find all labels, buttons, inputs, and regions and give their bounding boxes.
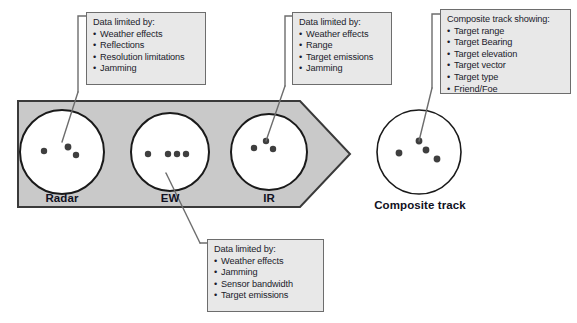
radar-callout-item: Jamming [93,63,199,75]
ir-callout-list: Weather effects Range Target emissions J… [299,29,385,75]
ew-callout-item: Target emissions [214,290,317,302]
ir-callout-item: Weather effects [299,29,385,41]
ir-callout-box: Data limited by: Weather effects Range T… [292,12,392,85]
composite-callout-item: Target Bearing [447,37,564,49]
radar-callout-leader [78,16,86,92]
composite-callout-item: Target range [447,26,564,38]
radar-callout-title: Data limited by: [93,17,199,29]
ir-dot [251,145,257,151]
ew-callout-list: Weather effects Jamming Sensor bandwidth… [214,256,317,302]
radar-callout-item: Resolution limitations [93,52,199,64]
ir-callout-item: Range [299,40,385,52]
radar-callout-list: Weather effects Reflections Resolution l… [93,29,199,75]
composite-callout-title: Composite track showing: [447,14,564,26]
composite-dot [434,156,441,163]
radar-callout-item: Reflections [93,40,199,52]
composite-callout-leader [432,14,440,88]
composite-callout-item: Target elevation [447,49,564,61]
sensor-fusion-diagram: Radar EW IR Composite track Data limited… [0,0,577,323]
radar-dot [73,152,79,158]
composite-dot [396,150,403,157]
ew-callout-item: Weather effects [214,256,317,268]
composite-callout-box: Composite track showing: Target range Ta… [440,9,571,94]
ew-callout-item: Jamming [214,267,317,279]
composite-callout-list: Target range Target Bearing Target eleva… [447,26,564,96]
ir-dot [270,146,276,152]
ew-callout-title: Data limited by: [214,244,317,256]
ir-circle [231,114,307,190]
radar-callout-item: Weather effects [93,29,199,41]
ew-callout-box: Data limited by: Weather effects Jamming… [207,239,324,312]
ew-callout-item: Sensor bandwidth [214,279,317,291]
ew-dot [174,151,180,157]
composite-callout-item: Target type [447,72,564,84]
composite-callout-item: Target vector [447,60,564,72]
ir-callout-title: Data limited by: [299,17,385,29]
ew-dot [145,151,151,157]
radar-callout-box: Data limited by: Weather effects Reflect… [86,12,206,85]
composite-track-circle [377,110,461,194]
radar-dot [41,148,47,154]
ir-callout-item: Target emissions [299,52,385,64]
ir-callout-item: Jamming [299,63,385,75]
radar-node-label: Radar [16,192,108,204]
ir-node-label: IR [230,192,308,204]
ir-callout-leader [285,16,292,86]
composite-node-label: Composite track [359,199,481,211]
ew-dot [183,151,189,157]
composite-dot [423,147,430,154]
composite-callout-item: Friend/Foe [447,84,564,96]
radar-circle [20,110,104,194]
radar-dot [65,144,72,151]
ew-dot [165,151,171,157]
ew-node-label: EW [130,192,210,204]
